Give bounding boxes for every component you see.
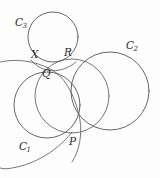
label-point-p: P — [69, 136, 76, 147]
circle-c1 — [14, 72, 80, 138]
label-circle-c1: C1 — [19, 141, 31, 154]
label-circle-c2: C2 — [126, 40, 138, 53]
label-circle-c3-text: C — [15, 16, 23, 28]
geometry-figure: C3 C2 C1 X R Q P — [0, 0, 160, 178]
label-point-r: R — [64, 47, 72, 58]
label-circle-c2-text: C — [126, 39, 134, 51]
label-circle-c1-subscript: 1 — [27, 146, 31, 154]
circle-c2 — [71, 52, 149, 130]
arc-large-lower — [0, 132, 72, 169]
label-circle-c2-subscript: 2 — [134, 45, 138, 53]
label-point-q: Q — [42, 68, 51, 79]
label-circle-c1-text: C — [19, 140, 27, 152]
label-circle-c3: C3 — [15, 17, 27, 30]
label-circle-c3-subscript: 3 — [23, 22, 27, 30]
label-point-x: X — [31, 49, 38, 60]
